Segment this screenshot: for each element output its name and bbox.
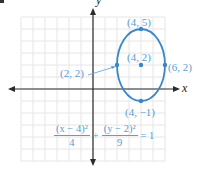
term-x-numerator: (x − 4)²	[54, 123, 90, 136]
y-axis-label: y	[96, 0, 101, 6]
label-bottom-vertex: (4, −1)	[125, 107, 155, 118]
label-top-vertex: (4, 5)	[127, 17, 151, 28]
term-x-denominator: 4	[69, 136, 74, 148]
term-x: (x − 4)² 4	[54, 123, 90, 148]
label-right-co-vertex: (6, 2)	[168, 62, 192, 73]
plus-sign: +	[93, 130, 99, 141]
label-left-co-vertex: (2, 2)	[60, 68, 84, 79]
term-y: (y − 2)² 9	[102, 123, 138, 148]
ellipse-graph: x y (4, 5) (4, 2) (2, 2) (6, 2) (4, −1) …	[0, 0, 198, 174]
x-axis-label: x	[182, 82, 187, 94]
term-y-denominator: 9	[117, 136, 122, 148]
ellipse-equation: (x − 4)² 4 + (y − 2)² 9 = 1	[54, 123, 157, 148]
term-y-numerator: (y − 2)²	[102, 123, 138, 136]
label-center: (4, 2)	[127, 52, 151, 63]
equals-one: = 1	[141, 130, 155, 141]
